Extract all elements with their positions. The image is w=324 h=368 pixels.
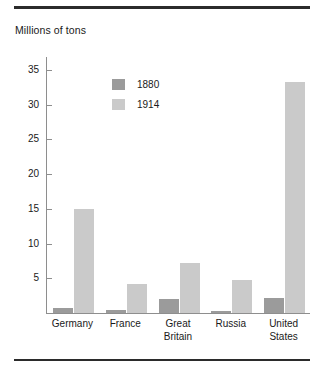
x-category-label: United States	[257, 318, 310, 343]
x-category-label: Germany	[46, 318, 99, 331]
bar-group	[264, 57, 305, 313]
x-category-label: France	[99, 318, 152, 331]
x-axis-category-labels: GermanyFranceGreat BritainRussiaUnited S…	[46, 318, 310, 360]
top-divider-rule	[14, 6, 310, 9]
chart-plot-area: 5101520253035	[46, 57, 310, 314]
bar-group	[211, 57, 252, 313]
bar-1914[interactable]	[232, 280, 252, 313]
chart-legend: 18801914	[112, 76, 159, 116]
bar-1914[interactable]	[285, 82, 305, 313]
bar-1880[interactable]	[159, 299, 179, 313]
bar-1914[interactable]	[74, 209, 94, 313]
y-tick-label: 30	[28, 99, 39, 110]
legend-swatch-icon	[112, 79, 125, 90]
bar-1880[interactable]	[106, 310, 126, 313]
bar-group	[53, 57, 94, 313]
x-category-label: Great Britain	[152, 318, 205, 343]
bar-1880[interactable]	[211, 311, 231, 313]
legend-swatch-icon	[112, 99, 125, 110]
legend-label: 1914	[137, 99, 159, 110]
bottom-divider-rule	[14, 359, 310, 361]
y-tick-label: 20	[28, 168, 39, 179]
bar-group	[159, 57, 200, 313]
legend-label: 1880	[137, 79, 159, 90]
y-tick-label: 10	[28, 238, 39, 249]
y-tick-label: 5	[33, 272, 39, 283]
x-axis-baseline	[46, 313, 310, 314]
bar-1880[interactable]	[53, 308, 73, 313]
y-axis-title: Millions of tons	[15, 24, 86, 36]
x-category-label: Russia	[204, 318, 257, 331]
bar-series-container	[47, 57, 310, 313]
bar-1914[interactable]	[180, 263, 200, 313]
bar-1914[interactable]	[127, 284, 147, 313]
legend-item[interactable]: 1914	[112, 96, 159, 112]
y-tick-label: 35	[28, 64, 39, 75]
legend-item[interactable]: 1880	[112, 76, 159, 92]
y-tick-label: 15	[28, 203, 39, 214]
bar-1880[interactable]	[264, 298, 284, 313]
y-tick-label: 25	[28, 133, 39, 144]
